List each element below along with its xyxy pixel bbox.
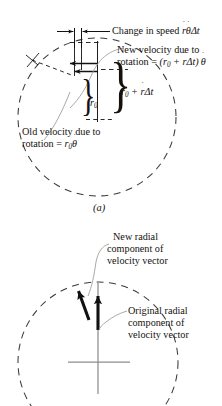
label-new-radial-line2: component of	[107, 243, 163, 254]
label-original-radial-line1: Original radial	[128, 305, 188, 316]
label-brace-outer: r0 + ˙rΔt	[121, 86, 153, 101]
label-change-in-speed-text: Change in speed	[112, 25, 179, 36]
label-old-velocity-line1: Old velocity due to	[22, 126, 100, 137]
label-change-in-speed: Change in speed ˙r˙θΔt	[112, 25, 200, 36]
radius-dashed-upper-left	[32, 60, 74, 76]
label-old-velocity-rotation-word: rotation =	[22, 138, 62, 149]
figure-caption-a: (a)	[93, 202, 105, 213]
expr-old-velocity: r0˙θ	[65, 138, 78, 149]
expr-change-in-speed: ˙r˙θΔt	[182, 25, 200, 36]
physics-figure: Change in speed ˙r˙θΔt New velocity due …	[0, 0, 222, 406]
label-original-radial-line3: velocity vector	[128, 329, 189, 340]
new-radial-vector-arrow	[79, 291, 90, 320]
brace-outer-r0-plus: }	[110, 54, 131, 116]
expr-new-velocity: (r0 + ˙rΔt) ˙θ	[160, 56, 206, 67]
label-new-radial-line3: velocity vector	[107, 255, 168, 266]
label-new-radial-line1: New radial	[113, 231, 158, 242]
label-brace-inner-r0: r0	[90, 97, 98, 112]
label-original-radial-line2: component of	[128, 317, 184, 328]
leader-line-original-radial	[99, 311, 127, 330]
label-old-velocity-line2: rotation = r0˙θ	[22, 138, 77, 153]
